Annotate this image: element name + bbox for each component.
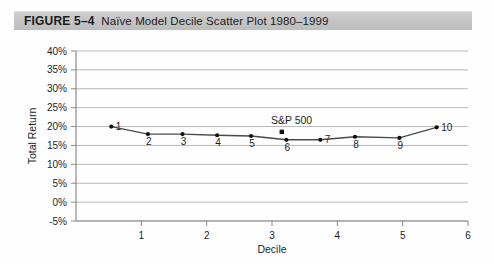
y-tick-label: 15% [47, 140, 67, 151]
x-tick-marks [141, 221, 468, 226]
x-tick-label: 6 [465, 230, 471, 241]
data-point-label: 5 [249, 138, 255, 149]
y-tick-label: -5% [49, 216, 67, 227]
x-axis-title: Decile [257, 243, 286, 255]
y-tick-label: 10% [47, 159, 67, 170]
x-tick-label: 2 [204, 230, 210, 241]
data-point-marker [109, 124, 113, 128]
data-point-label: 4 [215, 137, 221, 148]
series-annotation: S&P 500 [271, 114, 312, 126]
data-point-label: 3 [181, 136, 187, 147]
y-tick-label: 5% [53, 178, 68, 189]
sp500-marker [280, 130, 284, 134]
data-point-label: 9 [398, 140, 404, 151]
y-tick-label: 20% [47, 121, 67, 132]
scatter-chart: -5%0%5%10%15%20%25%30%35%40% 123456 Tota… [0, 0, 494, 264]
x-tick-label: 3 [269, 230, 275, 241]
y-tick-label: 40% [47, 46, 67, 57]
x-tick-label: 4 [335, 230, 341, 241]
data-point-label: 1 [116, 121, 122, 132]
trend-line [111, 127, 436, 140]
y-tick-label: 25% [47, 102, 67, 113]
y-axis-title: Total Return [26, 108, 38, 165]
y-tick-label: 35% [47, 64, 67, 75]
axes [76, 51, 468, 221]
data-point-label: 8 [353, 139, 359, 150]
chart-annotations: S&P 500 [271, 114, 312, 126]
x-tick-labels: 123456 [139, 230, 472, 241]
figure-container: FIGURE 5–4 Naïve Model Decile Scatter Pl… [0, 0, 494, 264]
x-tick-label: 5 [400, 230, 406, 241]
y-tick-label: 0% [53, 197, 68, 208]
trend-line-path [111, 127, 436, 140]
data-point-label: 2 [146, 136, 152, 147]
data-point-marker [318, 138, 322, 142]
y-tick-labels: -5%0%5%10%15%20%25%30%35%40% [47, 46, 67, 227]
x-tick-label: 1 [139, 230, 145, 241]
y-tick-label: 30% [47, 83, 67, 94]
data-point-marker [435, 125, 439, 129]
data-point-label: 6 [285, 142, 291, 153]
data-point-label: 7 [325, 134, 331, 145]
data-point-label: 10 [441, 122, 453, 133]
